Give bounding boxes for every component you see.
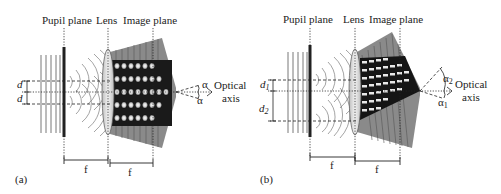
alpha-2-label: α2 (443, 72, 453, 86)
panel-b: Pupil plane Lens Image plane d1 d2 α2 α1… (259, 13, 487, 186)
panel-a: Pupil plane Lens Image plane d d α α Opt… (15, 14, 246, 186)
image-plane-fringes (357, 32, 420, 148)
image-plane-label: Image plane (369, 13, 423, 25)
focal-length-1-label: f (330, 159, 334, 171)
d-upper-label: d (17, 78, 23, 90)
pupil-plane-label: Pupil plane (283, 13, 333, 25)
focal-length-2-label: f (128, 166, 132, 178)
image-plane-fringes (110, 38, 176, 148)
alpha-lower-label: α (197, 94, 203, 106)
d2-label: d2 (259, 102, 269, 116)
d-lower-label: d (17, 92, 23, 104)
pupil-plane-label: Pupil plane (42, 14, 92, 26)
axis-label: axis (222, 92, 240, 104)
lens-label: Lens (343, 13, 364, 25)
focal-length-brackets (64, 156, 153, 167)
incident-plane-waves (41, 55, 60, 133)
image-plane-label: Image plane (123, 14, 177, 26)
lens-shape (349, 49, 361, 135)
alpha-1-label: α1 (438, 96, 448, 110)
focal-length-brackets (310, 153, 400, 165)
lens-label: Lens (96, 14, 117, 26)
focal-length-2-label: f (375, 163, 379, 175)
focal-length-1-label: f (84, 163, 88, 175)
optics-figure: Pupil plane Lens Image plane d d α α Opt… (0, 0, 501, 194)
panel-b-caption: (b) (260, 173, 273, 186)
panel-a-caption: (a) (15, 173, 28, 186)
axis-label: axis (462, 91, 480, 103)
optical-label: Optical (214, 79, 246, 91)
optical-label: Optical (455, 78, 487, 90)
alpha-upper-label: α (202, 78, 208, 90)
